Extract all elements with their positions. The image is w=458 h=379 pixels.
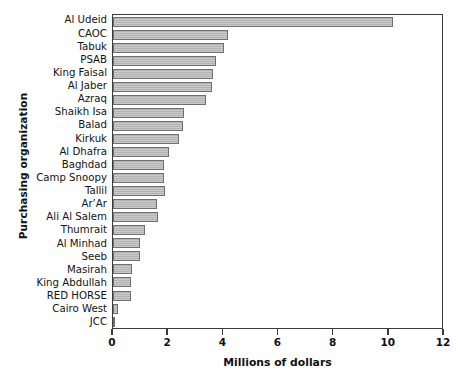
category-label: Shaikh Isa xyxy=(8,106,110,119)
bar xyxy=(113,56,216,66)
bar xyxy=(113,199,157,209)
bar xyxy=(113,225,145,235)
category-label: CAOC xyxy=(8,27,110,40)
bar-row xyxy=(113,185,442,198)
bar xyxy=(113,108,184,118)
bar-row xyxy=(113,159,442,172)
bar-row xyxy=(113,237,442,250)
bar xyxy=(113,134,179,144)
category-label: Camp Snoopy xyxy=(8,172,110,185)
x-axis-tick-label: 12 xyxy=(436,336,451,348)
category-label: Al Minhad xyxy=(8,237,110,250)
x-axis-tick xyxy=(442,329,443,335)
category-label: Azraq xyxy=(8,93,110,106)
bar xyxy=(113,317,115,327)
x-axis-tick-labels: 024681012 xyxy=(112,336,443,352)
category-label: Masirah xyxy=(8,263,110,276)
bar-row xyxy=(113,67,442,80)
bar-row xyxy=(113,41,442,54)
x-axis-title: Millions of dollars xyxy=(112,356,443,369)
bar xyxy=(113,212,158,222)
category-label: RED HORSE xyxy=(8,290,110,303)
bar xyxy=(113,238,140,248)
bar-row xyxy=(113,224,442,237)
bar xyxy=(113,95,206,105)
x-axis-tick xyxy=(222,329,223,335)
category-label: Al Dhafra xyxy=(8,145,110,158)
category-label: Cairo West xyxy=(8,303,110,316)
bar-row xyxy=(113,289,442,302)
bar-row xyxy=(113,80,442,93)
bar xyxy=(113,186,165,196)
x-axis-tick-label: 4 xyxy=(219,336,226,348)
plot-area xyxy=(112,14,443,329)
category-axis-labels: Al UdeidCAOCTabukPSABKing FaisalAl Jaber… xyxy=(8,14,110,329)
bar xyxy=(113,277,131,287)
category-label: King Faisal xyxy=(8,67,110,80)
bar-row xyxy=(113,28,442,41)
category-label: Al Udeid xyxy=(8,14,110,27)
bar-row xyxy=(113,93,442,106)
category-label: Baghdad xyxy=(8,158,110,171)
bar-row xyxy=(113,263,442,276)
bar-row xyxy=(113,198,442,211)
bar-row xyxy=(113,250,442,263)
bar xyxy=(113,69,213,79)
category-label: JCC xyxy=(8,316,110,329)
bar-row xyxy=(113,315,442,328)
category-label: Balad xyxy=(8,119,110,132)
bars-layer xyxy=(113,15,442,328)
category-label: Ar’Ar xyxy=(8,198,110,211)
bar xyxy=(113,304,118,314)
category-label: Tabuk xyxy=(8,40,110,53)
bar xyxy=(113,291,131,301)
category-label: Al Jaber xyxy=(8,80,110,93)
x-axis-tick xyxy=(111,329,112,335)
bar-row xyxy=(113,54,442,67)
category-label: Thumrait xyxy=(8,224,110,237)
category-label: King Abdullah xyxy=(8,277,110,290)
bar xyxy=(113,264,132,274)
category-label: PSAB xyxy=(8,53,110,66)
x-axis-tick-label: 10 xyxy=(381,336,396,348)
bar xyxy=(113,121,183,131)
category-label: Tallil xyxy=(8,185,110,198)
bar-row xyxy=(113,15,442,28)
bar xyxy=(113,160,164,170)
bar xyxy=(113,43,224,53)
bar-row xyxy=(113,172,442,185)
bar xyxy=(113,82,212,92)
x-axis-tick xyxy=(277,329,278,335)
x-axis-tick xyxy=(387,329,388,335)
bar xyxy=(113,147,169,157)
bar-row xyxy=(113,106,442,119)
bar-row xyxy=(113,276,442,289)
category-label: Kirkuk xyxy=(8,132,110,145)
bar-row xyxy=(113,132,442,145)
bar-row xyxy=(113,145,442,158)
bar xyxy=(113,30,228,40)
bar xyxy=(113,17,393,27)
category-label: Seeb xyxy=(8,250,110,263)
x-axis-tick xyxy=(332,329,333,335)
bar-chart: Purchasing organization Al UdeidCAOCTabu… xyxy=(0,0,458,379)
category-label: Ali Al Salem xyxy=(8,211,110,224)
bar xyxy=(113,251,140,261)
bar-row xyxy=(113,119,442,132)
x-axis-tick-label: 8 xyxy=(329,336,336,348)
x-axis-tick-label: 2 xyxy=(164,336,171,348)
x-axis-tick xyxy=(166,329,167,335)
x-axis-ticks xyxy=(112,329,443,336)
bar-row xyxy=(113,302,442,315)
bar xyxy=(113,173,164,183)
bar-row xyxy=(113,211,442,224)
x-axis-tick-label: 6 xyxy=(274,336,281,348)
x-axis-tick-label: 0 xyxy=(108,336,115,348)
